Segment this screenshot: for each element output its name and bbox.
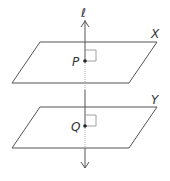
point-q-label: Q	[71, 120, 80, 134]
plane-x-label: X	[150, 27, 160, 41]
point-p-label: P	[72, 55, 80, 69]
plane-y-label: Y	[151, 93, 160, 107]
perpendicular-planes-diagram: ℓ X P Y Q	[0, 0, 170, 181]
point-p	[83, 59, 87, 63]
right-angle-mark-p	[85, 50, 96, 61]
point-q	[83, 124, 87, 128]
line-label: ℓ	[80, 6, 86, 20]
right-angle-mark-q	[85, 115, 96, 126]
